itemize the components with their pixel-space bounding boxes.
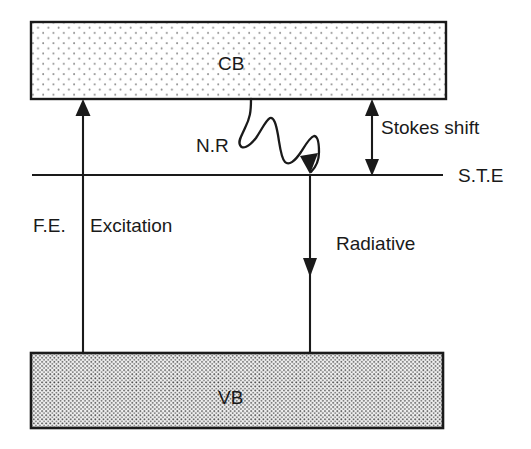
stokes-shift-arrowhead-top xyxy=(365,99,379,116)
stokes-shift-label: Stokes shift xyxy=(381,117,480,138)
nonradiative-relaxation: N.R xyxy=(196,99,319,174)
radiative-arrowhead xyxy=(303,258,317,277)
nonradiative-arrowhead xyxy=(300,153,318,174)
diagram-canvas: CB VB S.T.E F.E. Excitation N.R xyxy=(0,0,531,449)
excitation-transition: F.E. Excitation xyxy=(33,99,172,353)
nonradiative-label: N.R xyxy=(196,135,229,156)
valence-band: VB xyxy=(31,353,443,428)
excitation-label-fe: F.E. xyxy=(33,215,66,236)
ste-level-label: S.T.E xyxy=(458,165,503,186)
radiative-label: Radiative xyxy=(336,233,415,254)
valence-band-label: VB xyxy=(218,387,243,408)
energy-band-diagram: CB VB S.T.E F.E. Excitation N.R xyxy=(0,0,531,449)
excitation-arrowhead xyxy=(76,99,91,116)
conduction-band: CB xyxy=(31,22,446,99)
ste-level: S.T.E xyxy=(32,165,503,186)
radiative-transition: Radiative xyxy=(303,175,415,353)
stokes-shift-arrowhead-bottom xyxy=(365,159,379,176)
excitation-label-text: Excitation xyxy=(90,215,172,236)
conduction-band-label: CB xyxy=(218,53,244,74)
